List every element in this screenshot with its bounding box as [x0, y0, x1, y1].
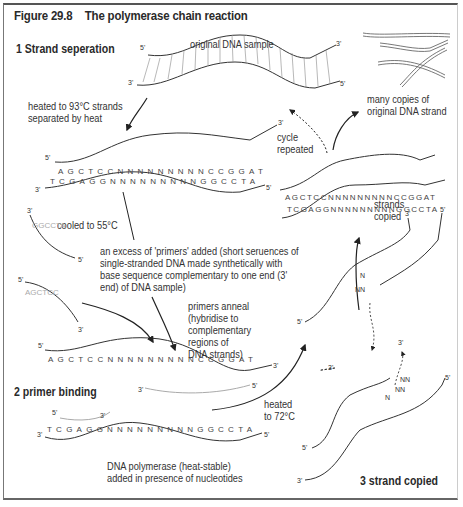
- three-prime-label: 3': [273, 362, 278, 369]
- primer-1-sequence: GGCCTA: [32, 221, 66, 230]
- nucleotide-nn: NN: [400, 376, 410, 383]
- top-strand-sequence: AGCTCCNNNNNNNNNCCGGAT: [285, 193, 435, 202]
- copied-strand-pair: AGCTCCNNNNNNNNNCCGGAT TCGAGGNNNNNNNNNGGC…: [280, 154, 445, 218]
- five-prime-label: 5': [440, 206, 445, 213]
- extending-strand: 5' 3' 5' N NN: [297, 206, 445, 350]
- five-prime-label: 5': [18, 276, 23, 283]
- five-prime-label: 5': [445, 374, 450, 381]
- arrow-many-copies: [333, 112, 358, 150]
- five-prime-label: 5': [340, 80, 345, 87]
- bottom-strand-sequence: TCGAGGNNNNNNNNNGGCCTA: [50, 177, 256, 186]
- five-prime-label: 5': [264, 431, 269, 438]
- bottom-strand-sequence: TCGAGGNNNNNNNNNGGCCTA: [47, 425, 253, 434]
- top-strand-sequence: AGCTCCNNNNNNNNNCCGGAT: [48, 355, 253, 364]
- final-strand-pair: 5' 3' 5' NN NN N 3' 3': [297, 339, 450, 484]
- original-dna: 5' 3' 3' 5': [128, 35, 345, 88]
- top-strand-sequence: AGCTCCNNNNNNNNNCCGGAT: [58, 167, 263, 176]
- dashed-arrow: [370, 303, 374, 350]
- five-prime-label: 5': [302, 444, 307, 451]
- bottom-strand-sequence: TCGAGGNNNNNNNNNGGCCTA: [287, 205, 438, 214]
- arrow-heat: [127, 98, 147, 130]
- three-prime-label: 3': [398, 339, 403, 346]
- three-prime-label: 3': [405, 210, 410, 217]
- three-prime-label: 3': [328, 364, 333, 371]
- nucleotide-n: N: [385, 394, 390, 401]
- three-prime-label: 3': [138, 386, 143, 393]
- pcr-diagram: 5' 3' 3' 5' 5' 3' 3' 5' AGCTCCNNNNNNNNNC…: [0, 0, 463, 507]
- three-prime-label: 3': [336, 40, 341, 47]
- separated-strands: 5' 3' 3' 5' AGCTCCNNNNNNNNNCCGGAT TCGAGG…: [35, 119, 283, 193]
- many-copies-tangle: [363, 33, 450, 87]
- five-prime-label: 5': [140, 44, 145, 51]
- five-prime-label: 5': [45, 154, 50, 161]
- three-prime-label: 3': [278, 119, 283, 126]
- arrow-primers: [82, 303, 153, 342]
- five-prime-label: 5': [78, 256, 83, 263]
- three-prime-label: 3': [37, 431, 42, 438]
- three-prime-label: 3': [78, 326, 83, 333]
- arrow-strands-copied: [356, 238, 359, 310]
- three-prime-label: 3': [128, 79, 133, 86]
- three-prime-label: 3': [27, 207, 32, 214]
- five-prime-label: 5': [266, 184, 271, 191]
- five-prime-label: 5': [52, 409, 57, 416]
- three-prime-label: 3': [297, 477, 302, 484]
- primer-2-sequence: AGCTCC: [25, 288, 59, 297]
- arrow-anneal: [152, 297, 175, 350]
- five-prime-label: 5': [297, 318, 302, 325]
- three-prime-label: 3': [35, 186, 40, 193]
- nucleotide-nn: NN: [395, 386, 405, 393]
- primer-binding-strands: AGCTCCNNNNNNNNNCCGGAT 5' 3' 3' 5' TCGAGG…: [37, 338, 278, 441]
- connector-line: [123, 192, 134, 240]
- three-prime-label: 3': [100, 412, 105, 419]
- five-prime-label: 5': [252, 382, 257, 389]
- five-prime-label: 5': [38, 342, 43, 349]
- nucleotide-nn: NN: [355, 286, 365, 293]
- free-primers: GGCCTA 3' 5' AGCTCC 5' 3': [18, 207, 83, 333]
- nucleotide-n: N: [360, 272, 365, 279]
- arrow-heated-72: [212, 345, 305, 410]
- arrow-cycle-repeated: [290, 110, 327, 153]
